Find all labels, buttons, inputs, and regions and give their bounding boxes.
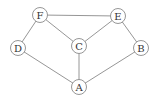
node-label: B: [137, 43, 144, 54]
node-c: C: [72, 39, 87, 54]
node-f: F: [33, 8, 48, 23]
edge-d-a: [18, 48, 79, 87]
node-label: C: [75, 41, 83, 52]
nodes: FEDCBA: [11, 8, 149, 95]
node-b: B: [134, 41, 149, 56]
edge-f-e: [40, 15, 118, 16]
edge-b-a: [79, 48, 141, 87]
node-label: A: [74, 82, 83, 93]
node-e: E: [111, 9, 126, 24]
graph-diagram: FEDCBA: [0, 0, 161, 98]
node-a: A: [72, 80, 87, 95]
node-d: D: [11, 41, 26, 56]
node-label: D: [14, 43, 22, 54]
node-label: F: [37, 10, 44, 21]
node-label: E: [114, 11, 121, 22]
